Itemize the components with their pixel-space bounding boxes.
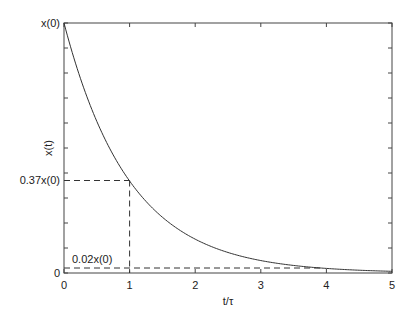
axis-ticks — [64, 23, 392, 273]
x-label-5: 5 — [389, 279, 395, 291]
x-label-4: 4 — [323, 279, 329, 291]
x-label-3: 3 — [258, 279, 264, 291]
y-label-zero: 0 — [54, 267, 60, 279]
x-axis-title: t/τ — [223, 295, 234, 307]
annotation-002: 0.02x(0) — [72, 253, 112, 265]
x-label-0: 0 — [61, 279, 67, 291]
x-label-2: 2 — [192, 279, 198, 291]
exponential-decay-chart: x(0) 0.37x(0) 0 0.02x(0) 0 1 2 3 4 5 t/τ… — [0, 0, 412, 312]
y-label-037: 0.37x(0) — [20, 174, 60, 186]
y-axis-title: x(t) — [42, 140, 54, 156]
y-label-x0: x(0) — [41, 17, 60, 29]
decay-curve — [64, 23, 392, 271]
x-label-1: 1 — [127, 279, 133, 291]
plot-frame — [64, 23, 392, 273]
